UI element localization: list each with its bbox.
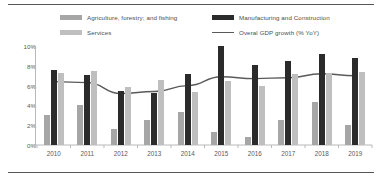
bar xyxy=(245,137,251,145)
bar xyxy=(125,87,131,145)
x-axis-tick-label: 2016 xyxy=(248,150,262,157)
x-axis-tick-label: 2011 xyxy=(80,150,94,157)
bar xyxy=(319,54,325,145)
bar xyxy=(278,120,284,145)
bar xyxy=(225,81,231,145)
x-axis-tick-label: 2017 xyxy=(281,150,295,157)
bar xyxy=(51,70,57,145)
x-axis-tick-label: 2015 xyxy=(214,150,228,157)
bar xyxy=(185,74,191,145)
bar xyxy=(359,72,365,145)
bar xyxy=(158,80,164,145)
x-axis-tick-label: 2013 xyxy=(147,150,161,157)
bar xyxy=(151,93,157,145)
bar xyxy=(91,71,97,145)
bar xyxy=(44,115,50,145)
bar xyxy=(192,92,198,145)
x-axis-tick-label: 2010 xyxy=(47,150,61,157)
plot-area: 0%2%4%6%8%10% 20102011201220132014201520… xyxy=(0,0,382,182)
bar xyxy=(77,105,83,145)
bar xyxy=(259,86,265,145)
bar xyxy=(352,58,358,145)
bar xyxy=(144,120,150,145)
bar xyxy=(252,65,258,145)
bar xyxy=(312,102,318,145)
bar xyxy=(111,129,117,145)
bar xyxy=(178,112,184,145)
bar xyxy=(211,132,217,145)
bar xyxy=(292,74,298,145)
bar xyxy=(326,73,332,145)
x-axis-tick-label: 2018 xyxy=(315,150,329,157)
chart-figure: Agriculture, forestry; and fishing Servi… xyxy=(0,0,382,182)
bar xyxy=(345,125,351,145)
bar xyxy=(285,61,291,145)
bar xyxy=(58,73,64,145)
bar xyxy=(84,75,90,145)
x-axis-tick-label: 2014 xyxy=(181,150,195,157)
x-axis-tick-label: 2012 xyxy=(114,150,128,157)
x-axis-tick-label: 2019 xyxy=(348,150,362,157)
bar xyxy=(118,91,124,145)
bar xyxy=(218,46,224,145)
